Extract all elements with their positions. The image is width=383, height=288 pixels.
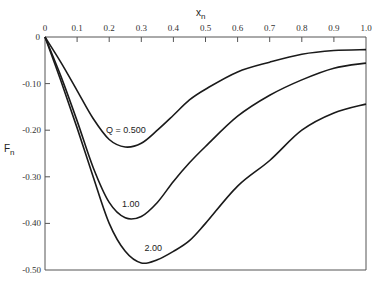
axes: 00.10.20.30.40.50.60.70.80.91.00-0.10-0.…: [22, 23, 372, 275]
y-tick-label: -0.10: [22, 79, 41, 89]
curve-label: 1.00: [122, 199, 140, 209]
curve-label: Q = 0.500: [106, 125, 146, 135]
curve-line: [45, 37, 366, 263]
x-tick-label: 0.3: [136, 23, 148, 33]
y-tick-label: -0.50: [22, 265, 41, 275]
x-tick-label: 0.6: [232, 23, 244, 33]
x-tick-label: 0.8: [296, 23, 308, 33]
x-tick-label: 0.5: [200, 23, 212, 33]
x-tick-label: 0.9: [328, 23, 340, 33]
x-tick-label: 0.7: [264, 23, 276, 33]
y-tick-label: -0.20: [22, 125, 41, 135]
curves: [45, 37, 366, 263]
x-tick-label: 0: [43, 23, 48, 33]
x-tick-label: 0.4: [168, 23, 180, 33]
y-tick-label: -0.30: [22, 172, 41, 182]
curve-line: [45, 37, 366, 147]
y-axis-title: Fn: [4, 143, 15, 157]
curve-line: [45, 37, 366, 219]
chart-canvas: 00.10.20.30.40.50.60.70.80.91.00-0.10-0.…: [0, 0, 383, 288]
x-tick-label: 1.0: [360, 23, 372, 33]
curve-label: 2.00: [145, 243, 163, 253]
y-tick-label: -0.40: [22, 218, 41, 228]
x-tick-label: 0.1: [71, 23, 82, 33]
x-axis-title: xn: [196, 7, 205, 21]
x-tick-label: 0.2: [104, 23, 115, 33]
y-tick-label: 0: [36, 32, 41, 42]
